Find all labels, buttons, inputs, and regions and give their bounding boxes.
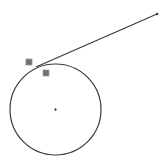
selection-handle-2[interactable] xyxy=(43,70,49,76)
center-point-marker xyxy=(54,108,57,111)
drawing-canvas[interactable] xyxy=(0,0,166,167)
line-endpoint[interactable] xyxy=(156,13,159,16)
tangent-line[interactable] xyxy=(36,14,157,67)
selection-handle-1[interactable] xyxy=(26,59,32,65)
